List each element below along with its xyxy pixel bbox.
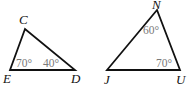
triangles-diagram: C E D 70° 40° N J U 60° 70° <box>0 0 191 88</box>
vertex-label-u: U <box>176 72 187 87</box>
vertex-label-d: D <box>70 71 81 86</box>
vertex-label-e: E <box>2 71 11 86</box>
angle-label-u: 70° <box>156 57 173 69</box>
angle-label-d: 40° <box>43 57 60 69</box>
vertex-label-c: C <box>19 12 28 27</box>
triangle-ced: C E D 70° 40° <box>2 12 81 86</box>
triangle-nju: N J U 60° 70° <box>104 0 187 87</box>
angle-label-n: 60° <box>143 24 160 36</box>
angle-label-e: 70° <box>16 57 33 69</box>
vertex-label-n: N <box>151 0 162 12</box>
vertex-label-j: J <box>104 72 111 87</box>
